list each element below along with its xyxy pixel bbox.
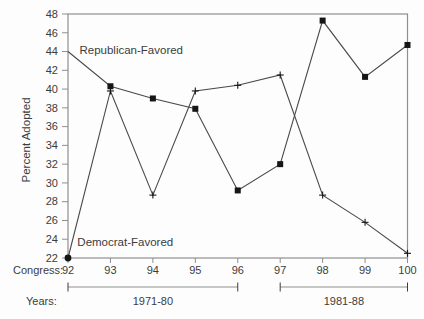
y-tick-label: 34 — [46, 139, 58, 151]
x-tick-label: 99 — [359, 264, 371, 276]
y-tick-label: 48 — [46, 8, 58, 20]
series-label: Democrat-Favored — [77, 236, 173, 248]
y-axis-title: Percent Adopted — [20, 97, 32, 182]
x-tick-label: 96 — [232, 264, 244, 276]
data-point-square-republican-favored — [362, 74, 368, 80]
y-tick-label: 46 — [46, 27, 58, 39]
y-tick-label: 30 — [46, 177, 58, 189]
y-tick-label: 38 — [46, 102, 58, 114]
y-tick-label: 44 — [46, 45, 58, 57]
data-point-square-republican-favored — [150, 95, 156, 101]
years-range-label: 1981-88 — [324, 295, 364, 307]
x-tick-label: 95 — [189, 264, 201, 276]
figure: 2224262830323436384042444648929394959697… — [0, 0, 424, 319]
years-axis-title: Years: — [26, 295, 57, 307]
y-tick-label: 22 — [46, 252, 58, 264]
years-range-label: 1971-80 — [133, 295, 173, 307]
x-tick-label: 93 — [104, 264, 116, 276]
data-point-square-republican-favored — [405, 42, 411, 48]
line-chart: 2224262830323436384042444648929394959697… — [0, 0, 424, 319]
x-tick-label: 98 — [317, 264, 329, 276]
x-tick-label: 100 — [398, 264, 416, 276]
data-point-dot-democrat-favored — [65, 255, 72, 262]
y-tick-label: 42 — [46, 64, 58, 76]
y-tick-label: 26 — [46, 214, 58, 226]
data-point-square-republican-favored — [320, 18, 326, 24]
data-point-square-republican-favored — [192, 106, 198, 112]
y-tick-label: 24 — [46, 233, 58, 245]
x-tick-label: 92 — [62, 264, 74, 276]
series-line-democrat-favored — [68, 75, 408, 258]
series-label: Republican-Favored — [79, 44, 183, 56]
y-tick-label: 32 — [46, 158, 58, 170]
y-tick-label: 40 — [46, 83, 58, 95]
y-tick-label: 28 — [46, 195, 58, 207]
x-tick-label: 97 — [274, 264, 286, 276]
x-axis-title: Congress: — [13, 264, 63, 276]
y-tick-label: 36 — [46, 120, 58, 132]
data-point-square-republican-favored — [235, 187, 241, 193]
x-tick-label: 94 — [147, 264, 159, 276]
data-point-square-republican-favored — [277, 161, 283, 167]
